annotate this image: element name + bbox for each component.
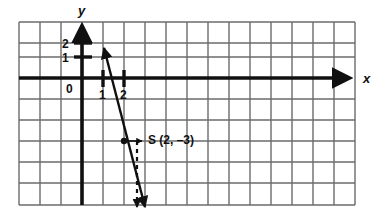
plot-canvas bbox=[0, 0, 380, 216]
y-tick-label-2: 2 bbox=[62, 38, 69, 50]
x-tick-label-2: 2 bbox=[120, 89, 127, 101]
x-tick-label-1: 1 bbox=[99, 89, 106, 101]
point-s-label: S (2, –3) bbox=[148, 134, 194, 146]
y-tick-label-1: 1 bbox=[62, 52, 69, 64]
y-axis-label: y bbox=[78, 4, 85, 17]
coordinate-graph-figure: y x 2 1 0 1 2 S (2, –3) bbox=[0, 0, 380, 216]
origin-label: 0 bbox=[66, 83, 73, 95]
grid-vertical-lines bbox=[19, 22, 355, 205]
x-axis-label: x bbox=[363, 72, 370, 85]
